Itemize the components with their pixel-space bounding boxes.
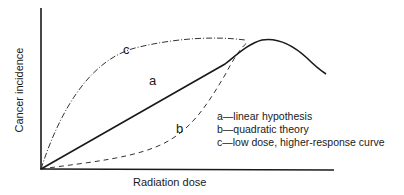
x-axis-label: Radiation dose — [133, 176, 206, 188]
legend-item-c: c—low dose, higher-response curve — [217, 136, 385, 149]
curve-a — [41, 39, 326, 169]
curve-c — [41, 38, 245, 169]
legend: a—linear hypothesis b—quadratic theory c… — [217, 110, 385, 149]
diagram-canvas — [0, 0, 404, 195]
x-axis — [40, 169, 334, 170]
curve-b — [41, 42, 248, 169]
legend-item-a: a—linear hypothesis — [217, 110, 385, 123]
legend-item-b: b—quadratic theory — [217, 123, 385, 136]
curve-label-b: b — [176, 121, 183, 136]
curve-label-a: a — [149, 73, 156, 88]
curve-label-c: c — [123, 42, 130, 57]
y-axis-label: Cancer incidence — [13, 45, 25, 135]
